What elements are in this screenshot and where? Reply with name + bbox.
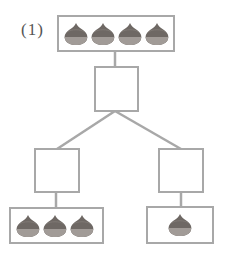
problem-label: (1): [21, 20, 44, 40]
right-blank-box[interactable]: [158, 148, 204, 193]
chestnut-icon: [64, 23, 88, 45]
chestnut-icon: [145, 23, 169, 45]
bottom-left-chestnut-box: [9, 207, 104, 244]
middle-blank-box[interactable]: [94, 66, 139, 112]
chestnut-icon: [118, 23, 142, 45]
left-blank-box[interactable]: [34, 148, 80, 193]
chestnut-icon: [91, 23, 115, 45]
top-chestnut-box: [57, 15, 175, 52]
connector-middle-left: [57, 111, 115, 149]
bottom-right-chestnut-box: [146, 206, 214, 244]
chestnut-icon: [168, 214, 192, 236]
chestnut-icon: [70, 215, 94, 237]
chestnut-icon: [16, 215, 40, 237]
connector-middle-right: [115, 111, 181, 149]
chestnut-icon: [43, 215, 67, 237]
